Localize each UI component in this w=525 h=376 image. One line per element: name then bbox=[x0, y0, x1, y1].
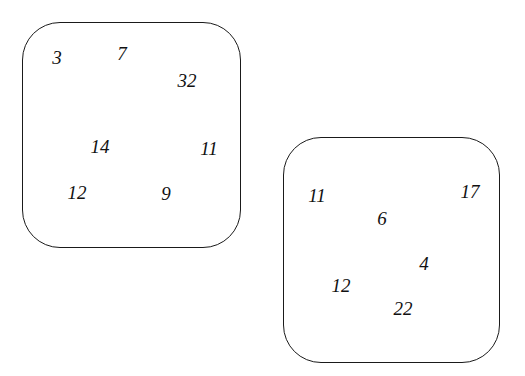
right-number: 12 bbox=[332, 276, 351, 295]
left-number: 9 bbox=[161, 184, 171, 203]
left-number: 14 bbox=[91, 137, 110, 156]
left-number: 3 bbox=[52, 48, 62, 67]
left-number: 7 bbox=[117, 44, 127, 63]
right-number: 17 bbox=[461, 182, 480, 201]
left-number: 12 bbox=[68, 183, 87, 202]
right-number: 4 bbox=[419, 254, 429, 273]
right-set-box bbox=[283, 137, 500, 363]
right-number: 11 bbox=[308, 186, 326, 205]
left-number: 11 bbox=[200, 139, 218, 158]
left-number: 32 bbox=[178, 71, 197, 90]
right-number: 6 bbox=[377, 209, 387, 228]
right-number: 22 bbox=[394, 299, 413, 318]
